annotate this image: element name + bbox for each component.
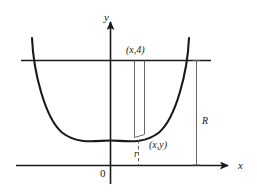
inner-radius-label: r <box>134 149 138 159</box>
outer-radius-label: R <box>202 116 208 126</box>
x-axis-label: x <box>238 160 243 171</box>
curve-point-label: (x,y) <box>149 140 167 150</box>
shell-bottom-cap <box>135 135 145 138</box>
top-point-label: (x,4) <box>126 45 145 55</box>
origin-label: 0 <box>100 168 106 179</box>
parabola-shell-diagram <box>0 0 257 194</box>
y-axis-label: y <box>104 12 109 23</box>
figure-container: y x 0 (x,4) (x,y) R r <box>0 0 257 194</box>
